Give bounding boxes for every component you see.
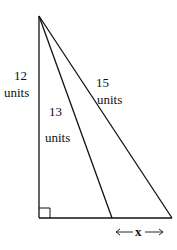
label-12-value: 12 (14, 68, 27, 83)
label-13-unit: units (45, 130, 70, 145)
label-13-value: 13 (49, 104, 62, 119)
label-x: x (135, 224, 142, 239)
triangle-diagram: 12 units 13 units 15 units x (0, 0, 177, 250)
label-15-value: 15 (96, 75, 109, 90)
label-12-unit: units (4, 85, 29, 100)
label-15-unit: units (97, 92, 122, 107)
right-angle-marker (39, 208, 50, 218)
